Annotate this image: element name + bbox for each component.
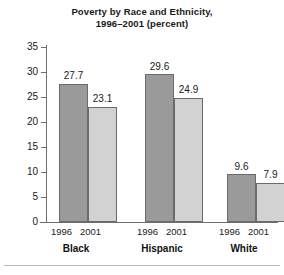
y-tick-label-35: 35 bbox=[8, 42, 38, 52]
bar-white-1996[interactable] bbox=[227, 174, 256, 222]
bar-hispanic-2001[interactable] bbox=[174, 98, 203, 223]
bar-hispanic-1996[interactable] bbox=[145, 74, 174, 222]
y-tick-label-5: 5 bbox=[8, 192, 38, 202]
x-tick-label-white-2001: 2001 bbox=[241, 226, 276, 237]
bar-black-1996[interactable] bbox=[59, 84, 88, 223]
y-tick-label-30: 30 bbox=[8, 67, 38, 77]
x-tick-label-black-2001: 2001 bbox=[73, 226, 108, 237]
x-axis-line bbox=[40, 222, 278, 223]
bar-value-hispanic-1996: 29.6 bbox=[140, 62, 179, 72]
chart-title-line-2: 1996–2001 (percent) bbox=[0, 18, 284, 30]
bar-value-black-1996: 27.7 bbox=[54, 71, 93, 81]
x-tick-label-hispanic-2001: 2001 bbox=[159, 226, 194, 237]
chart-title: Poverty by Race and Ethnicity, 1996–2001… bbox=[0, 6, 284, 30]
y-tick-label-15: 15 bbox=[8, 142, 38, 152]
y-tick-label-10: 10 bbox=[8, 167, 38, 177]
bar-black-2001[interactable] bbox=[88, 107, 117, 223]
bottom-divider bbox=[4, 265, 280, 266]
bar-white-2001[interactable] bbox=[256, 183, 284, 223]
plot-area: 27.7 23.1 29.6 24.9 9.6 7.9 bbox=[47, 47, 278, 222]
chart-figure: Poverty by Race and Ethnicity, 1996–2001… bbox=[0, 0, 284, 275]
bar-value-black-2001: 23.1 bbox=[83, 94, 122, 104]
bar-value-hispanic-2001: 24.9 bbox=[169, 85, 208, 95]
y-tick-label-25: 25 bbox=[8, 92, 38, 102]
y-tick-0 bbox=[41, 222, 47, 223]
group-label-hispanic: Hispanic bbox=[130, 243, 194, 255]
y-tick-label-0: 0 bbox=[8, 217, 38, 227]
chart-title-line-1: Poverty by Race and Ethnicity, bbox=[0, 6, 284, 18]
bar-value-white-2001: 7.9 bbox=[251, 170, 284, 180]
group-label-black: Black bbox=[44, 243, 108, 255]
group-label-white: White bbox=[212, 243, 276, 255]
y-tick-label-20: 20 bbox=[8, 117, 38, 127]
